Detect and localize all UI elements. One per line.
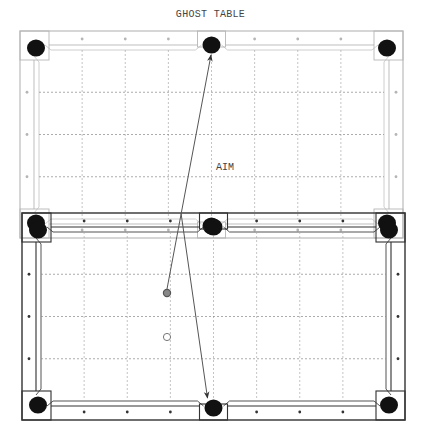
real-table-diamond: [28, 357, 31, 360]
ghost-table-diamond: [124, 38, 127, 41]
real-table-diamond: [83, 220, 86, 223]
real-table-diamond: [28, 273, 31, 276]
ghost-table-diamond: [26, 133, 29, 136]
ghost-table-diamond: [339, 229, 342, 232]
real-table-pocket-bottom-middle: [205, 399, 223, 416]
real-table-diamond: [126, 411, 129, 414]
aim-line-to-ghost-pocket: [167, 55, 211, 289]
ghost-table-pocket-top-left: [27, 39, 45, 56]
ghost-table-diamond: [167, 38, 170, 41]
real-table-diamond: [255, 220, 258, 223]
real-table-diamond: [126, 220, 129, 223]
real-table-diamond: [298, 411, 301, 414]
real-table-diamond: [341, 411, 344, 414]
real-table-diamond: [341, 220, 344, 223]
real-table-diamond: [169, 220, 172, 223]
ghost-table-diamond: [395, 133, 398, 136]
real-table-diamond: [28, 315, 31, 318]
ghost-table-diamond: [26, 91, 29, 94]
real-table-diamond: [397, 273, 400, 276]
diagram-canvas: [0, 0, 421, 437]
ghost-table-cushion-top: [222, 45, 379, 50]
ghost-table-diamond: [253, 38, 256, 41]
ghost-table-cushion-top: [45, 45, 202, 50]
ghost-table-pocket-top-middle: [203, 36, 221, 53]
aim-label: AIM: [216, 162, 234, 173]
diagram-title: GHOST TABLE: [0, 9, 421, 20]
ghost-table-cushion-bottom: [45, 219, 202, 224]
ghost-table-diamond: [339, 38, 342, 41]
ghost-table-diamond: [124, 229, 127, 232]
ghost-table-diamond: [81, 229, 84, 232]
real-table-diamond: [397, 315, 400, 318]
real-table-cushion-bottom: [224, 401, 381, 406]
ghost-table-diamond: [167, 229, 170, 232]
real-table-diamond: [397, 357, 400, 360]
real-table-cushion-bottom: [47, 401, 204, 406]
ghost-table-cushion-side: [34, 56, 39, 213]
reflected-shot-line: [181, 213, 208, 398]
ghost-table-diamond: [81, 38, 84, 41]
real-table-diamond: [255, 411, 258, 414]
ghost-table-diamond: [296, 229, 299, 232]
ghost-table-diamond: [26, 175, 29, 178]
real-table-diamond: [169, 411, 172, 414]
real-table-diamond: [298, 220, 301, 223]
ghost-table-diagram: GHOST TABLE AIM: [0, 0, 421, 437]
real-table-pocket-top-left: [29, 221, 47, 238]
ghost-table-diamond: [395, 175, 398, 178]
ghost-table-cushion-side: [384, 56, 389, 213]
real-table-cushion-side: [386, 238, 391, 395]
real-table-pocket-bottom-left: [29, 396, 47, 413]
real-table-pocket-top-right: [380, 221, 398, 238]
real-table-cushion-side: [36, 238, 41, 395]
ghost-table-diamond: [253, 229, 256, 232]
real-table-cushion-top: [224, 227, 381, 232]
ghost-table-diamond: [296, 38, 299, 41]
object-ball: [163, 289, 170, 296]
ghost-table-pocket-top-right: [378, 39, 396, 56]
real-table-pocket-top-middle: [205, 218, 223, 235]
real-table-diamond: [83, 411, 86, 414]
real-table-pocket-bottom-right: [380, 396, 398, 413]
ghost-table-diamond: [395, 91, 398, 94]
cue-ball: [163, 333, 170, 340]
